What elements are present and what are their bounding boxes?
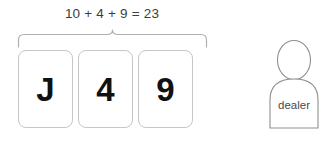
card[interactable]: J — [18, 50, 73, 128]
hand-brace — [14, 28, 212, 48]
dealer-person-icon — [264, 38, 324, 132]
card-value: 4 — [96, 73, 114, 106]
blackjack-hand-diagram: 10 + 4 + 9 = 23 J 4 9 dealer — [0, 0, 332, 142]
card[interactable]: 9 — [138, 50, 193, 128]
card-row: J 4 9 — [18, 50, 193, 128]
hand-sum-label: 10 + 4 + 9 = 23 — [0, 6, 224, 22]
card[interactable]: 4 — [78, 50, 133, 128]
card-value: 9 — [156, 73, 174, 106]
card-value: J — [36, 73, 54, 106]
dealer-label: dealer — [264, 98, 324, 112]
